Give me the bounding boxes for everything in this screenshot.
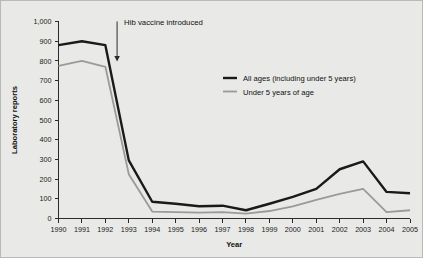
- x-tick-label: 2000: [285, 225, 301, 234]
- x-tick-label: 2001: [308, 225, 324, 234]
- x-tick-label: 1993: [121, 225, 137, 234]
- y-tick-label: 600: [40, 96, 52, 105]
- chart-figure: 01002003004005006007008009001,000 199019…: [0, 0, 423, 258]
- y-tick-label: 300: [40, 155, 52, 164]
- annotation-group: Hib vaccine introduced: [114, 18, 203, 61]
- y-tick-label: 500: [40, 116, 52, 125]
- x-tick-label: 2005: [402, 225, 418, 234]
- annotation-text-1: Hib vaccine introduced: [124, 18, 203, 27]
- x-tick-label: 1999: [261, 225, 277, 234]
- y-tick-label: 100: [40, 194, 52, 203]
- chart-legend: All ages (including under 5 years)Under …: [223, 74, 356, 97]
- y-axis-tick-labels: 01002003004005006007008009001,000: [34, 17, 52, 223]
- annotation-arrow-head-1: [114, 56, 120, 62]
- y-tick-label: 400: [40, 135, 52, 144]
- x-tick-label: 2004: [379, 225, 395, 234]
- x-tick-label: 1998: [238, 225, 254, 234]
- y-tick-label: 700: [40, 76, 52, 85]
- x-tick-label: 1990: [51, 225, 67, 234]
- y-tick-label: 800: [40, 57, 52, 66]
- x-tick-label: 1997: [215, 225, 231, 234]
- y-axis-title: Laboratory reports: [10, 86, 19, 154]
- legend-label-2: Under 5 years of age: [243, 88, 314, 97]
- x-axis-tick-labels: 1990199119921993199419951996199719981999…: [51, 225, 419, 234]
- x-tick-label: 1996: [191, 225, 207, 234]
- x-tick-label: 2003: [355, 225, 371, 234]
- axis-tick-marks: [55, 22, 410, 223]
- series-line-1: [59, 61, 411, 214]
- x-tick-label: 1994: [144, 225, 160, 234]
- x-tick-label: 1995: [168, 225, 184, 234]
- data-series-group: [59, 41, 411, 213]
- legend-label-1: All ages (including under 5 years): [243, 74, 356, 83]
- x-tick-label: 1992: [97, 225, 113, 234]
- y-tick-label: 900: [40, 37, 52, 46]
- series-line-2: [59, 41, 411, 210]
- y-tick-label: 200: [40, 175, 52, 184]
- x-tick-label: 1991: [74, 225, 90, 234]
- x-tick-label: 2002: [332, 225, 348, 234]
- x-axis-title: Year: [226, 240, 242, 249]
- hib-laboratory-reports-line-chart: 01002003004005006007008009001,000 199019…: [1, 1, 423, 258]
- y-tick-label: 1,000: [34, 17, 52, 26]
- y-tick-label: 0: [48, 214, 52, 223]
